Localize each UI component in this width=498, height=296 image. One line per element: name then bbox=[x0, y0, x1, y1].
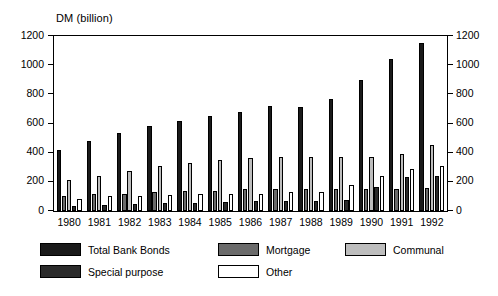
bar bbox=[369, 157, 373, 211]
y-tick-mark-left bbox=[48, 152, 53, 153]
y-tick-mark-left bbox=[48, 64, 53, 65]
bar bbox=[147, 126, 151, 211]
y-tick-mark-right bbox=[448, 152, 453, 153]
bar bbox=[289, 192, 293, 211]
bar bbox=[314, 201, 318, 211]
y-tick-label-left: 200 bbox=[8, 175, 44, 185]
bar-chart-figure: DM (billion) 020040060080010001200 02004… bbox=[0, 0, 498, 296]
x-tick-label: 1980 bbox=[54, 216, 84, 228]
y-tick-label-right: 800 bbox=[456, 88, 474, 98]
legend-label: Communal bbox=[393, 244, 444, 256]
bar bbox=[374, 187, 378, 211]
bar bbox=[410, 169, 414, 211]
bar bbox=[87, 141, 91, 211]
x-tick-label: 1981 bbox=[84, 216, 114, 228]
y-tick-label-left: 400 bbox=[8, 146, 44, 156]
bar bbox=[400, 154, 404, 211]
x-tick-label: 1982 bbox=[114, 216, 144, 228]
bar bbox=[213, 191, 217, 211]
bar bbox=[394, 189, 398, 211]
bar bbox=[127, 171, 131, 211]
y-tick-mark-right bbox=[448, 35, 453, 36]
bar bbox=[284, 201, 288, 212]
bar bbox=[97, 176, 101, 211]
bar bbox=[92, 194, 96, 211]
x-tick-label: 1990 bbox=[356, 216, 386, 228]
x-tick-label: 1987 bbox=[266, 216, 296, 228]
bar bbox=[309, 157, 313, 211]
bar bbox=[329, 99, 333, 211]
y-tick-mark-left bbox=[48, 35, 53, 36]
bar bbox=[193, 203, 197, 211]
bar bbox=[268, 106, 272, 211]
bar bbox=[435, 176, 439, 211]
legend-label: Special purpose bbox=[88, 266, 163, 278]
x-tick-label: 1991 bbox=[387, 216, 417, 228]
y-tick-label-right: 600 bbox=[456, 117, 474, 127]
bar bbox=[198, 194, 202, 211]
y-axis-unit-label: DM (billion) bbox=[56, 12, 113, 24]
bar bbox=[248, 158, 252, 211]
x-tick-label: 1986 bbox=[235, 216, 265, 228]
y-tick-label-right: 1200 bbox=[456, 30, 479, 40]
bar bbox=[319, 192, 323, 211]
x-tick-label: 1988 bbox=[296, 216, 326, 228]
y-tick-label-left: 1000 bbox=[8, 59, 44, 69]
bars-layer bbox=[54, 36, 447, 211]
bar bbox=[163, 203, 167, 211]
bar bbox=[122, 194, 126, 212]
bar bbox=[238, 112, 242, 211]
bar bbox=[57, 150, 61, 211]
y-tick-label-right: 0 bbox=[456, 205, 462, 215]
y-tick-mark-left bbox=[48, 93, 53, 94]
legend-label: Other bbox=[266, 266, 292, 278]
bar bbox=[389, 59, 393, 211]
y-tick-label-left: 600 bbox=[8, 117, 44, 127]
bar bbox=[243, 189, 247, 211]
bar bbox=[405, 177, 409, 211]
bar bbox=[223, 202, 227, 211]
legend-entry: Mortgage bbox=[218, 243, 310, 256]
y-tick-mark-right bbox=[448, 210, 453, 211]
bar bbox=[188, 163, 192, 211]
legend-swatch bbox=[40, 265, 81, 278]
x-tick-label: 1985 bbox=[205, 216, 235, 228]
bar bbox=[183, 191, 187, 211]
y-tick-mark-right bbox=[448, 64, 453, 65]
bar bbox=[117, 133, 121, 211]
legend-label: Total Bank Bonds bbox=[88, 244, 170, 256]
y-tick-label-right: 200 bbox=[456, 175, 474, 185]
legend-entry: Other bbox=[218, 265, 292, 278]
x-tick-label: 1984 bbox=[175, 216, 205, 228]
bar bbox=[273, 189, 277, 211]
bar bbox=[229, 194, 233, 211]
y-tick-label-right: 400 bbox=[456, 146, 474, 156]
x-tick-label: 1992 bbox=[417, 216, 447, 228]
chart-legend: Total Bank BondsMortgageCommunalSpecial … bbox=[40, 243, 470, 287]
legend-label: Mortgage bbox=[266, 244, 310, 256]
x-tick-label: 1983 bbox=[145, 216, 175, 228]
y-tick-label-right: 1000 bbox=[456, 59, 479, 69]
bar bbox=[108, 196, 112, 211]
bar bbox=[177, 121, 181, 211]
bar bbox=[67, 180, 71, 211]
bar bbox=[440, 166, 444, 211]
y-tick-mark-right bbox=[448, 93, 453, 94]
bar bbox=[168, 195, 172, 211]
bar bbox=[298, 107, 302, 211]
legend-swatch bbox=[218, 243, 259, 256]
bar bbox=[344, 200, 348, 211]
y-tick-mark-left bbox=[48, 123, 53, 124]
legend-entry: Special purpose bbox=[40, 265, 163, 278]
y-tick-label-left: 0 bbox=[8, 205, 44, 215]
bar bbox=[138, 196, 142, 211]
bar bbox=[364, 189, 368, 211]
y-tick-label-left: 1200 bbox=[8, 30, 44, 40]
bar bbox=[254, 201, 258, 211]
legend-swatch bbox=[218, 265, 259, 278]
legend-entry: Communal bbox=[345, 243, 444, 256]
bar bbox=[304, 189, 308, 211]
bar bbox=[279, 157, 283, 211]
bar bbox=[425, 188, 429, 211]
bar bbox=[419, 43, 423, 211]
